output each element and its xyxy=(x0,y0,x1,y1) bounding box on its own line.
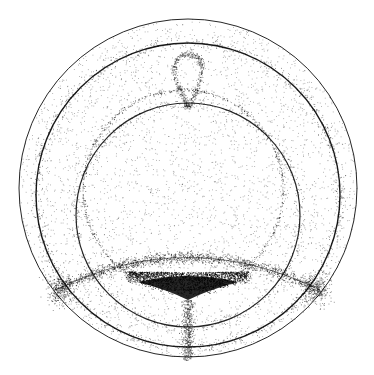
density-plot xyxy=(0,0,374,375)
attractor-figure xyxy=(0,0,374,375)
